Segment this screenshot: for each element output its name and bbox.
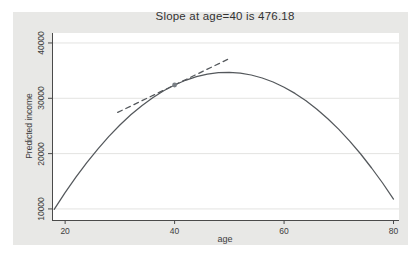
chart-title: Slope at age=40 is 476.18 xyxy=(156,10,295,22)
y-axis-title: Predicted income xyxy=(24,93,34,159)
x-tick-label: 20 xyxy=(60,226,69,236)
x-tick-label: 60 xyxy=(279,226,288,236)
tangent-point-marker xyxy=(172,83,177,88)
y-tick-label: 40000 xyxy=(36,31,46,55)
x-axis-title: age xyxy=(217,234,232,244)
x-tick-label: 80 xyxy=(389,226,398,236)
y-tick-label: 20000 xyxy=(36,142,46,166)
x-tick-label: 40 xyxy=(170,226,179,236)
y-tick-label: 10000 xyxy=(36,197,46,221)
y-tick-label: 30000 xyxy=(36,86,46,110)
figure: Slope at age=40 is 476.18 Predicted inco… xyxy=(0,0,419,265)
